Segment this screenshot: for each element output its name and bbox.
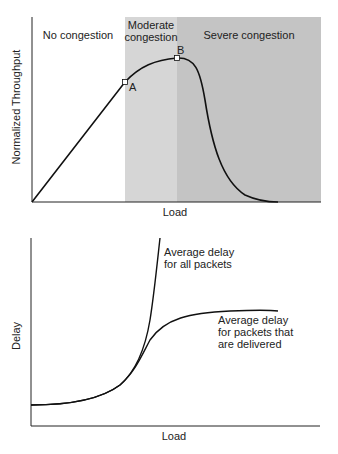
severe-region [177,17,321,202]
delivered-label-3: are delivered [218,338,282,350]
point-b-marker [175,56,180,61]
throughput-chart: A B No congestion Moderate congestion Se… [10,17,321,218]
point-a-label: A [129,81,137,93]
y-axis-label: Normalized Throughput [10,50,22,165]
all-packets-delay-curve [31,238,160,405]
moderate-region [125,17,177,202]
x-axis-label: Load [162,430,186,442]
all-packets-label-2: for all packets [164,258,232,270]
point-b-label: B [177,44,184,56]
delivered-label-2: for packets that [218,326,293,338]
all-packets-label-1: Average delay [164,246,235,258]
delay-chart: Average delay for all packets Average de… [10,238,320,442]
x-axis-label: Load [163,206,187,218]
congestion-diagram: A B No congestion Moderate congestion Se… [0,0,338,454]
region-no-congestion-label: No congestion [43,29,113,41]
point-a-marker [123,80,128,85]
region-moderate-label-1: Moderate [128,19,174,31]
region-severe-label: Severe congestion [203,29,294,41]
delivered-label-1: Average delay [218,314,289,326]
y-axis-label: Delay [10,321,22,350]
region-moderate-label-2: congestion [124,31,177,43]
